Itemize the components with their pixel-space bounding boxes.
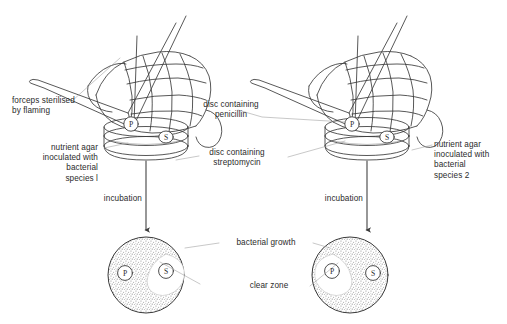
result-dish-left (108, 237, 184, 313)
left-scene-forceps-and-dish (29, 16, 221, 160)
disc-letter-p: P (350, 120, 354, 129)
disc-letter-p: P (129, 120, 133, 129)
label-forceps-sterilised: forceps sterilised by flaming (12, 96, 104, 116)
disc-letter-s: S (164, 133, 168, 142)
label-incubation-right: incubation (309, 194, 363, 204)
label-disc-penicillin: disc containing penicillin (186, 100, 276, 120)
label-clear-zone: clear zone (228, 281, 310, 291)
label-disc-streptomycin: disc containing streptomycin (188, 148, 286, 168)
label-bacterial-growth: bacterial growth (220, 238, 312, 248)
disc-letter-s: S (385, 133, 389, 142)
right-scene-forceps-and-dish (250, 16, 442, 160)
disc-letter-p: P (330, 267, 334, 276)
label-nutrient-agar-right: nutrient agar inoculated with bacterial … (434, 140, 504, 181)
label-nutrient-agar-left: nutrient agar inoculated with bacterial … (6, 143, 98, 184)
disc-letter-s: S (371, 269, 375, 278)
disc-letter-p: P (123, 269, 127, 278)
diagram-canvas: P S P S P S P S forceps sterilised by fl… (0, 0, 507, 324)
label-incubation-left: incubation (88, 194, 142, 204)
disc-letter-s: S (164, 267, 168, 276)
